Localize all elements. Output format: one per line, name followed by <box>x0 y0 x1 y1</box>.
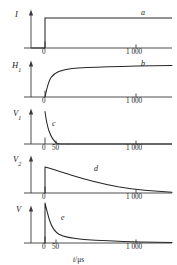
x-axis-label: t/μs <box>73 256 84 264</box>
curve-label-e: e <box>61 214 65 222</box>
x-tick-label-1000: 1 000 <box>126 244 142 251</box>
curve-c <box>45 112 68 145</box>
plot-area-H1 <box>0 56 177 105</box>
curve-b <box>45 66 172 97</box>
y-axis-arrow <box>29 61 33 67</box>
plot-area-V2 <box>0 152 177 201</box>
curve-d <box>45 167 172 193</box>
x-tick-label-0: 0 <box>42 244 46 251</box>
panel-field-H1: H1 b 0 1 000 <box>0 56 177 105</box>
panel-current-I: I a 0 1 000 <box>0 0 177 56</box>
figure-five-stacked-waveform-plots: I a 0 1 000 H1 <box>0 0 177 265</box>
plot-area-V <box>0 201 177 265</box>
panel-voltage-V2: V2 d 0 1 000 <box>0 152 177 201</box>
panel-voltage-V1: V1 c 0 50 1 000 <box>0 105 177 152</box>
curve-label-c: c <box>52 120 56 128</box>
y-axis-arrow <box>29 156 33 162</box>
y-axis-arrow <box>29 10 33 16</box>
curve-e <box>45 203 172 243</box>
curve-label-d: d <box>94 165 98 173</box>
curve-a <box>31 18 172 48</box>
curve-label-a: a <box>141 9 145 17</box>
y-axis-arrow <box>29 206 33 212</box>
plot-area-V1 <box>0 105 177 152</box>
panel-voltage-V: V e 0 50 1 000 t/μs <box>0 201 177 265</box>
y-axis-arrow <box>29 109 33 115</box>
curve-label-b: b <box>141 60 145 68</box>
plot-area-I <box>0 0 177 56</box>
x-tick-label-50: 50 <box>52 244 59 251</box>
